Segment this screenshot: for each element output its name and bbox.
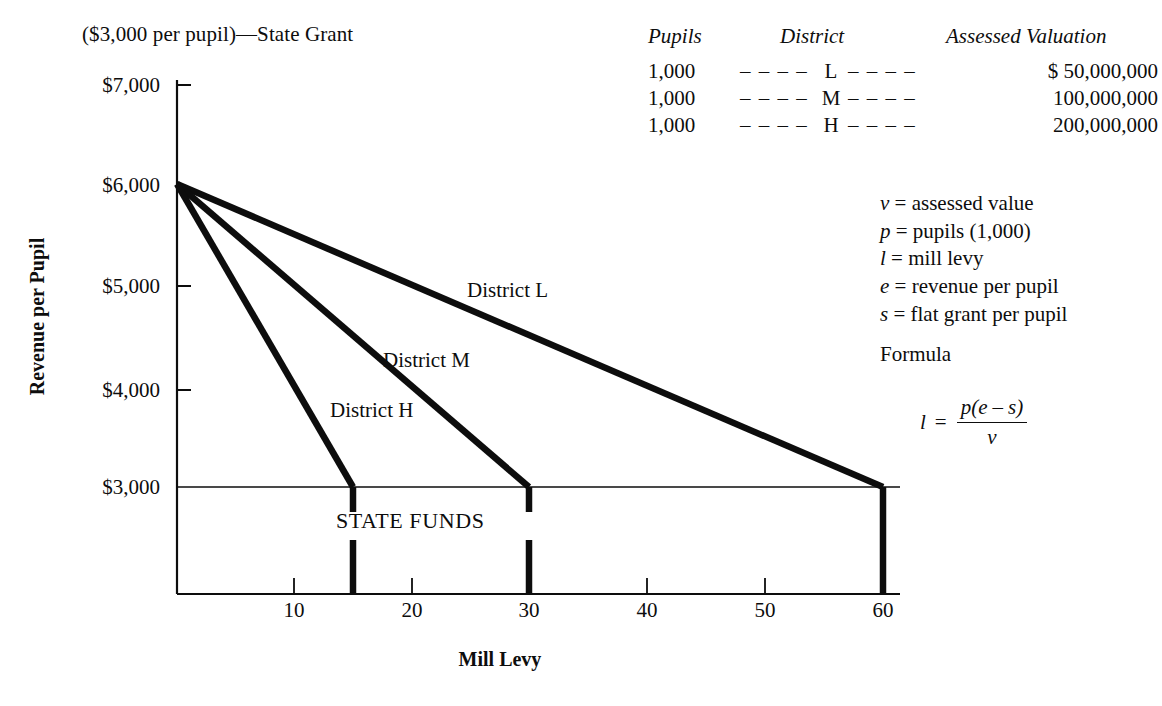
definition-text: = revenue per pupil [889, 274, 1058, 298]
formula-numerator: p(e–s) [957, 395, 1028, 423]
definition-item: s = flat grant per pupil [880, 301, 1067, 329]
series-label-district-h: District H [330, 398, 413, 423]
legend-cell-pupils: 1,000 [648, 112, 740, 139]
definition-symbol: p [880, 219, 891, 243]
formula-numerator-left: p(e [961, 395, 988, 419]
definition-symbol: s [880, 302, 888, 326]
formula-equals: = [935, 410, 947, 435]
formula-minus-operator: – [988, 395, 1009, 419]
legend-cell-valuation: $ 50,000,000 [938, 58, 1158, 85]
legend-row: 1,000 – – – – M – – – – 100,000,000 [648, 85, 1162, 112]
definition-item: p = pupils (1,000) [880, 218, 1067, 246]
legend-dash-left: – – – – [740, 85, 814, 112]
formula-denominator: v [957, 423, 1028, 450]
formula-lhs: l [920, 410, 926, 435]
series-label-district-l: District L [467, 278, 548, 303]
legend-dash-right: – – – – [848, 58, 938, 85]
definition-item: v = assessed value [880, 190, 1067, 218]
legend-cell-district: H [814, 112, 848, 139]
series-line-district-m [177, 184, 529, 487]
state-funds-annotation: STATE FUNDS [336, 508, 484, 534]
series-line-district-l [177, 184, 883, 487]
series-line-district-h [177, 184, 353, 487]
legend-dash-right: – – – – [848, 85, 938, 112]
legend-header-row: Pupils District Assessed Valuation [648, 24, 1162, 49]
definition-text: = assessed value [889, 191, 1033, 215]
legend-cell-valuation: 200,000,000 [938, 112, 1158, 139]
legend-header-district: District [780, 24, 946, 49]
formula-numerator-right: s) [1008, 395, 1023, 419]
legend-dash-left: – – – – [740, 58, 814, 85]
legend-dash-left: – – – – [740, 112, 814, 139]
definition-text: = pupils (1,000) [891, 219, 1031, 243]
series-label-district-m: District M [383, 348, 470, 373]
definition-text: = flat grant per pupil [888, 302, 1067, 326]
legend-cell-valuation: 100,000,000 [938, 85, 1158, 112]
legend-cell-district: M [814, 85, 848, 112]
definition-symbol: v [880, 191, 889, 215]
legend-row: 1,000 – – – – H – – – – 200,000,000 [648, 112, 1162, 139]
definition-item: l = mill levy [880, 245, 1067, 273]
formula-expression: l = p(e–s) v [920, 395, 1027, 450]
formula-fraction: p(e–s) v [957, 395, 1028, 450]
spacer [880, 329, 1067, 342]
definition-text: = mill levy [886, 246, 984, 270]
legend-cell-pupils: 1,000 [648, 85, 740, 112]
definition-item: e = revenue per pupil [880, 273, 1067, 301]
formula-heading: Formula [880, 342, 1067, 367]
legend-cell-pupils: 1,000 [648, 58, 740, 85]
definition-symbol: e [880, 274, 889, 298]
legend-header-assessed: Assessed Valuation [946, 24, 1162, 49]
legend-row: 1,000 – – – – L – – – – $ 50,000,000 [648, 58, 1162, 85]
legend-table: Pupils District Assessed Valuation 1,000… [648, 24, 1162, 139]
legend-header-pupils: Pupils [648, 24, 780, 49]
variable-definitions: v = assessed value p = pupils (1,000) l … [880, 190, 1067, 367]
legend-dash-right: – – – – [848, 112, 938, 139]
legend-cell-district: L [814, 58, 848, 85]
